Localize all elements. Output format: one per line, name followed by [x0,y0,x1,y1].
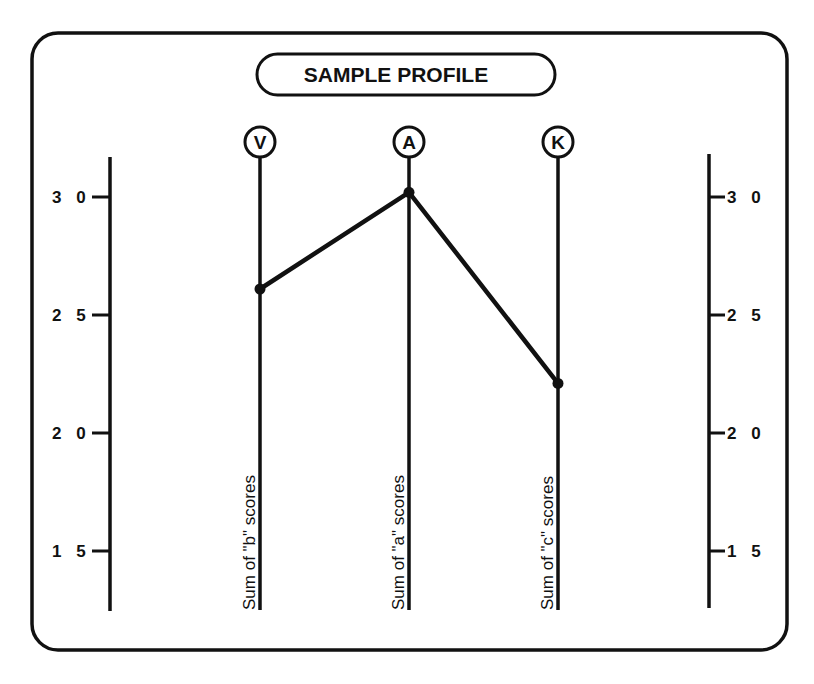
left-tick-label: 1 5 [52,542,91,561]
column-caption: Sum of "c" scores [538,476,557,610]
data-point-a [404,187,415,198]
left-tick-label: 2 5 [52,306,91,325]
category-letter: V [254,132,267,153]
category-columns: VSum of "b" scoresASum of "a" scoresKSum… [240,127,573,610]
left-axis-ticks: 3 02 52 01 5 [52,188,110,561]
left-tick-label: 3 0 [52,188,91,207]
column-caption: Sum of "b" scores [240,475,259,610]
right-tick-label: 2 0 [727,424,766,443]
column-k: KSum of "c" scores [538,127,573,610]
chart-title-badge: SAMPLE PROFILE [257,54,555,95]
column-caption: Sum of "a" scores [389,475,408,610]
left-tick-label: 2 0 [52,424,91,443]
category-letter: A [402,132,416,153]
data-point-k [553,378,564,389]
right-tick-label: 2 5 [727,306,766,325]
column-v: VSum of "b" scores [240,127,275,610]
data-point-v [255,284,266,295]
right-axis-ticks: 3 02 52 01 5 [709,188,766,561]
right-tick-label: 3 0 [727,188,766,207]
chart-title: SAMPLE PROFILE [304,63,488,86]
right-tick-label: 1 5 [727,542,766,561]
category-letter: K [551,132,565,153]
sample-profile-chart: SAMPLE PROFILE 3 02 52 01 5 3 02 52 01 5… [0,0,814,684]
